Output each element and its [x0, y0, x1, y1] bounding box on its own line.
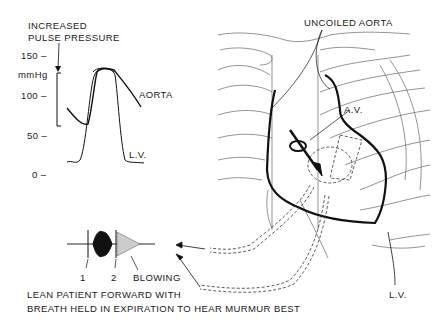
av-valve: [290, 110, 350, 176]
lv-heart-label: L.V.: [389, 289, 407, 300]
instruction-line2: BREATH HELD IN EXPIRATION TO HEAR MURMUR…: [27, 303, 300, 314]
av-label: A.V.: [344, 104, 363, 115]
phonocardiogram: [67, 230, 155, 270]
murmur-label: BLOWING: [133, 272, 181, 283]
aorta-curve: [67, 69, 141, 125]
uncoiled-aorta-label: UNCOILED AORTA: [304, 17, 393, 28]
lv-series-label: L.V.: [129, 149, 147, 160]
chart-title-line2: PULSE PRESSURE: [28, 32, 120, 43]
diagram-canvas: [0, 0, 432, 327]
y-tick-150: 150 –: [21, 50, 47, 61]
chart-title-line1: INCREASED: [28, 20, 87, 31]
aorta-series-label: AORTA: [139, 89, 173, 100]
pulse-pressure-bracket: [57, 73, 61, 126]
y-tick-50: 50 –: [27, 130, 47, 141]
s1-label: 1: [80, 272, 86, 283]
heart-outline: [267, 75, 386, 223]
aorta-pointers: [270, 30, 330, 110]
pulse-pressure-arrow: [58, 43, 59, 70]
pressure-chart: [55, 43, 144, 163]
instruction-line1: LEAN PATIENT FORWARD WITH: [27, 289, 181, 300]
y-axis-unit: mmHg: [18, 69, 48, 80]
s2-label: 2: [111, 272, 117, 283]
y-tick-0: 0 –: [32, 169, 46, 180]
y-tick-100: 100 –: [21, 90, 47, 101]
rib-cage: [218, 32, 430, 258]
